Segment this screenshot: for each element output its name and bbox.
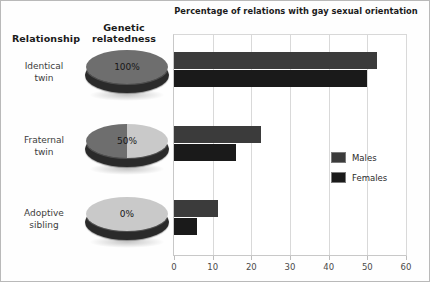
x-axis-tick: [367, 256, 368, 260]
legend-swatch-females: [331, 172, 346, 183]
column-header-relatedness-line2: relatedness: [83, 33, 165, 44]
bar-males-fraternal-twin: [174, 126, 261, 143]
x-axis-tick: [406, 256, 407, 260]
bar-females-identical-twin: [174, 70, 367, 87]
x-axis-tick-label: 40: [316, 262, 342, 272]
row-label-identical-twin: Identical twin: [5, 61, 83, 84]
legend-label-females: Females: [352, 173, 387, 183]
row-label-fraternal-twin-line2: twin: [5, 147, 83, 159]
relatedness-disc-adoptive-sibling: 0%: [85, 196, 169, 248]
gridline: [406, 35, 407, 255]
relatedness-value-fraternal-twin: 50%: [85, 123, 169, 159]
bar-females-fraternal-twin: [174, 144, 236, 161]
x-axis-tick: [290, 256, 291, 260]
x-axis-tick-label: 10: [200, 262, 226, 272]
row-label-fraternal-twin-line1: Fraternal: [5, 135, 83, 147]
x-axis-tick-label: 0: [161, 262, 187, 272]
chart-legend: Males Females: [331, 149, 387, 189]
x-axis-tick-label: 50: [354, 262, 380, 272]
legend-item-males: Males: [331, 149, 387, 166]
x-axis-tick-label: 30: [277, 262, 303, 272]
relatedness-disc-identical-twin: 100%: [85, 49, 169, 101]
bar-males-adoptive-sibling: [174, 200, 218, 217]
plot-area: [173, 34, 407, 256]
figure-container: Relationship Genetic relatedness Identic…: [0, 0, 430, 282]
legend-label-males: Males: [352, 153, 377, 163]
bar-females-adoptive-sibling: [174, 218, 197, 235]
x-axis-tick: [329, 256, 330, 260]
legend-item-females: Females: [331, 169, 387, 186]
x-axis-tick: [213, 256, 214, 260]
relatedness-value-identical-twin: 100%: [85, 49, 169, 85]
column-header-relatedness: Genetic relatedness: [83, 22, 165, 44]
x-axis-tick-label: 60: [393, 262, 419, 272]
x-axis-tick-label: 20: [238, 262, 264, 272]
relatedness-value-adoptive-sibling: 0%: [85, 196, 169, 232]
row-label-adoptive-sibling: Adoptive sibling: [5, 208, 83, 231]
row-label-adoptive-sibling-line1: Adoptive: [5, 208, 83, 220]
x-axis-tick: [174, 256, 175, 260]
bar-males-identical-twin: [174, 52, 377, 69]
column-header-relationship: Relationship: [7, 33, 85, 44]
column-header-relatedness-line1: Genetic: [83, 22, 165, 33]
row-label-identical-twin-line2: twin: [5, 73, 83, 85]
row-label-adoptive-sibling-line2: sibling: [5, 220, 83, 232]
row-label-fraternal-twin: Fraternal twin: [5, 135, 83, 158]
chart-title: Percentage of relations with gay sexual …: [171, 6, 421, 16]
relatedness-disc-fraternal-twin: 50%: [85, 123, 169, 175]
x-axis-tick: [251, 256, 252, 260]
row-label-identical-twin-line1: Identical: [5, 61, 83, 73]
legend-swatch-males: [331, 152, 346, 163]
